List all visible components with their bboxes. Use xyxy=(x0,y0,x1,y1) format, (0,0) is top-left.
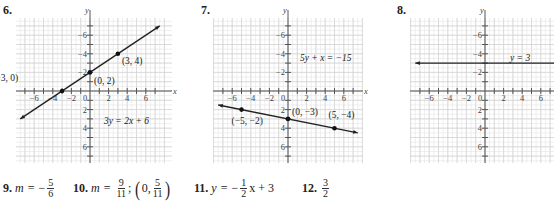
x-tick-label: −2 xyxy=(462,93,471,103)
x-tick-label: 4 xyxy=(520,93,525,103)
x-tick-label: −4 xyxy=(443,93,453,103)
answer-12: 12. 32 xyxy=(302,178,331,199)
y-tick-label: 6 xyxy=(478,142,482,152)
axes: −6−4−20246642−2−4−6y xyxy=(410,5,554,163)
arrow-head-icon xyxy=(415,61,420,65)
answer-11-number: 11. xyxy=(194,181,208,196)
answer-10-point-x: 0, xyxy=(142,181,151,196)
answer-10: 10. m = 911 ; ( 0, 511 ) xyxy=(73,178,172,199)
answer-10-lhs: m xyxy=(91,181,100,196)
x-tick-label: 0 xyxy=(478,93,482,103)
x-tick-label: −6 xyxy=(425,93,434,103)
answer-9-sign: − xyxy=(38,181,45,196)
y-tick-label: 2 xyxy=(478,105,482,115)
answer-11-eq: = xyxy=(221,181,228,196)
answer-10-separator: ; xyxy=(128,181,131,196)
answer-11-lhs: y xyxy=(211,181,216,196)
y-tick-label: −2 xyxy=(473,67,482,77)
answer-11-sign: − xyxy=(231,181,238,196)
denominator: 6 xyxy=(48,189,53,199)
x-tick-label: 6 xyxy=(539,93,543,103)
y-tick-label: −6 xyxy=(473,30,482,40)
denominator: 2 xyxy=(323,189,328,199)
right-paren: ) xyxy=(166,179,171,199)
answer-11-fraction: 12 xyxy=(240,178,247,199)
x-tick-label: 2 xyxy=(501,93,505,103)
left-paren: ( xyxy=(136,179,141,199)
equation-label: y = 3 xyxy=(509,53,530,63)
denominator: 11 xyxy=(153,189,163,199)
y-tick-label: −4 xyxy=(473,49,483,59)
y-axis-label: y xyxy=(479,5,484,15)
answer-12-number: 12. xyxy=(302,181,317,196)
graph-problem-8: −6−4−20246642−2−4−6yy = 3 xyxy=(0,0,554,175)
answer-11: 11. y = − 12 x + 3 xyxy=(194,178,274,199)
denominator: 11 xyxy=(116,189,126,199)
answer-10-eq: = xyxy=(104,181,111,196)
answer-9-number: 9. xyxy=(3,181,12,196)
denominator: 2 xyxy=(241,189,246,199)
answer-12-fraction: 32 xyxy=(322,178,329,199)
answer-9-fraction: 56 xyxy=(47,178,54,199)
answer-9: 9. m = − 56 xyxy=(3,178,56,199)
answer-9-lhs: m xyxy=(15,181,24,196)
answer-9-eq: = xyxy=(28,181,35,196)
answer-10-fraction: 911 xyxy=(116,178,126,199)
answer-11-rest: x + 3 xyxy=(249,181,274,196)
answer-10-point-fraction: 511 xyxy=(153,178,163,199)
answer-10-number: 10. xyxy=(73,181,88,196)
